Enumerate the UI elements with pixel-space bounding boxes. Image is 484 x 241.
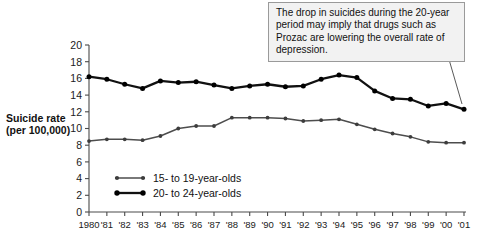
data-point-20-24	[444, 101, 449, 106]
data-point-20-24	[265, 82, 270, 87]
data-point-15-19	[319, 118, 323, 122]
data-point-20-24	[408, 97, 413, 102]
y-axis-title-line1: Suicide rate	[6, 112, 70, 124]
data-point-15-19	[159, 134, 163, 138]
data-point-15-19	[301, 119, 305, 123]
legend-label-20-24: 20- to 24-year-olds	[153, 187, 241, 199]
data-point-15-19	[373, 127, 377, 131]
data-point-15-19	[212, 124, 216, 128]
data-point-20-24	[390, 96, 395, 101]
data-point-20-24	[462, 107, 467, 112]
x-axis-tick-label: '86	[190, 219, 202, 230]
x-axis-tick-label: '94	[333, 219, 345, 230]
data-point-20-24	[87, 74, 92, 79]
y-axis-tick-label: 14	[70, 89, 82, 101]
data-point-20-24	[104, 77, 109, 82]
data-point-20-24	[194, 79, 199, 84]
series-line-15-19	[89, 118, 464, 143]
data-point-15-19	[284, 117, 288, 121]
x-axis-tick-label: '00	[440, 219, 452, 230]
data-point-15-19	[462, 141, 466, 145]
x-axis-tick-label: '98	[404, 219, 416, 230]
callout-annotation-text: The drop in suicides during the 20-year …	[276, 7, 449, 55]
y-axis-tick-label: 2	[76, 189, 82, 201]
data-point-15-19	[355, 122, 359, 126]
x-axis-tick-label: '89	[244, 219, 256, 230]
data-point-20-24	[247, 83, 252, 88]
x-axis-tick-label: '92	[297, 219, 309, 230]
legend-swatch-20-24-icon	[113, 187, 147, 199]
y-axis-tick-label: 6	[76, 156, 82, 168]
data-point-20-24	[229, 86, 234, 91]
data-point-15-19	[87, 139, 91, 143]
y-axis-title: Suicide rate (per 100,000)	[6, 112, 70, 136]
x-axis-tick-label: '82	[119, 219, 131, 230]
data-point-15-19	[230, 116, 234, 120]
y-axis-tick-label: 18	[70, 56, 82, 68]
x-axis-tick-label: '99	[422, 219, 434, 230]
x-axis-tick-label: '01	[458, 219, 470, 230]
data-point-15-19	[141, 138, 145, 142]
x-axis-tick-label: '95	[351, 219, 363, 230]
data-point-15-19	[176, 127, 180, 131]
legend-item-15-19: 15- to 19-year-olds	[113, 170, 241, 185]
x-axis-tick-label: '90	[261, 219, 273, 230]
legend-item-20-24: 20- to 24-year-olds	[113, 185, 241, 200]
data-point-15-19	[444, 141, 448, 145]
data-point-15-19	[337, 117, 341, 121]
x-axis-tick-label: '97	[386, 219, 398, 230]
x-axis-tick-label: '83	[136, 219, 148, 230]
data-point-20-24	[283, 84, 288, 89]
y-axis-tick-label: 20	[70, 39, 82, 51]
y-axis-tick-label: 12	[70, 106, 82, 118]
data-point-15-19	[266, 116, 270, 120]
chart-legend: 15- to 19-year-olds 20- to 24-year-olds	[113, 170, 241, 200]
x-axis-tick-label: '85	[172, 219, 184, 230]
suicide-rate-line-chart-figure: 024681012141618201980'81'82'83'84'85'86'…	[0, 0, 484, 241]
data-point-20-24	[354, 75, 359, 80]
data-point-20-24	[122, 82, 127, 87]
data-point-20-24	[212, 83, 217, 88]
legend-swatch-15-19-icon	[113, 172, 147, 184]
y-axis-tick-label: 4	[76, 172, 82, 184]
y-axis-tick-label: 16	[70, 72, 82, 84]
x-axis-tick-label: '87	[208, 219, 220, 230]
data-point-15-19	[194, 124, 198, 128]
x-axis-tick-label: '84	[154, 219, 166, 230]
data-point-15-19	[123, 137, 127, 141]
y-axis-tick-label: 8	[76, 139, 82, 151]
x-axis-tick-label: '91	[279, 219, 291, 230]
data-point-15-19	[426, 140, 430, 144]
data-point-20-24	[158, 78, 163, 83]
x-axis-tick-label: '93	[315, 219, 327, 230]
data-point-20-24	[372, 88, 377, 93]
data-point-15-19	[105, 137, 109, 141]
y-axis-tick-label: 0	[76, 206, 82, 218]
x-axis-tick-label: '88	[226, 219, 238, 230]
data-point-15-19	[409, 135, 413, 139]
callout-annotation-box: The drop in suicides during the 20-year …	[268, 2, 465, 62]
legend-label-15-19: 15- to 19-year-olds	[153, 172, 241, 184]
series-line-20-24	[89, 75, 464, 109]
data-point-20-24	[140, 86, 145, 91]
y-axis-title-line2: (per 100,000)	[6, 124, 70, 136]
data-point-15-19	[248, 116, 252, 120]
data-point-20-24	[337, 73, 342, 78]
x-axis-tick-label: 1980	[78, 219, 99, 230]
data-point-20-24	[176, 80, 181, 85]
x-axis-tick-label: '81	[101, 219, 113, 230]
data-point-20-24	[301, 83, 306, 88]
data-point-20-24	[426, 103, 431, 108]
data-point-20-24	[319, 77, 324, 82]
y-axis-tick-label: 10	[70, 122, 82, 134]
data-point-15-19	[391, 132, 395, 136]
x-axis-tick-label: '96	[369, 219, 381, 230]
